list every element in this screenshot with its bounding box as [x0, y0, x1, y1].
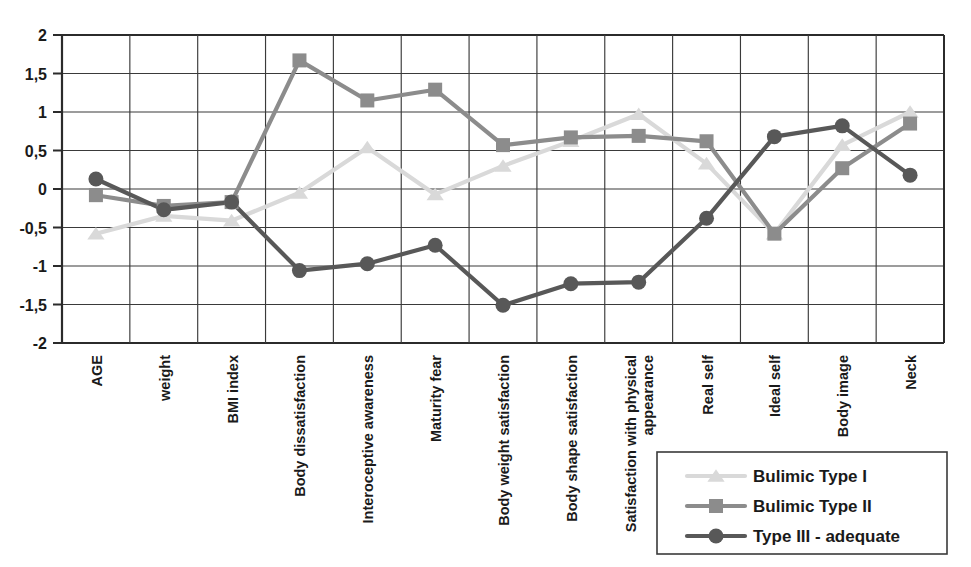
series-markers: [87, 53, 918, 312]
y-tick-label: 2: [38, 27, 47, 44]
x-tick-label: Body weight satisfaction: [496, 355, 512, 526]
x-tick-label: Neck: [903, 354, 919, 390]
data-point-marker: [360, 256, 375, 271]
x-tick-label: weight: [157, 355, 173, 402]
data-point-marker: [563, 276, 578, 291]
x-tick-label: Real self: [700, 355, 716, 415]
line-chart: 21,510,50-0,5-1-1,5-2 AGEweightBMI index…: [0, 0, 971, 567]
data-point-marker: [903, 168, 918, 183]
y-tick-label: -2: [33, 335, 47, 352]
data-point-marker: [564, 130, 578, 144]
x-tick-label: Maturity fear: [428, 355, 444, 442]
y-tick-label: -1,5: [19, 297, 47, 314]
x-tick-label: Satisfaction with physical: [623, 355, 639, 532]
x-tick-label: AGE: [89, 355, 105, 387]
x-tick-label: Interoceptive awareness: [360, 355, 376, 523]
data-point-marker: [700, 134, 714, 148]
data-point-marker: [699, 211, 714, 226]
legend-marker-swatch: [709, 529, 724, 544]
x-tick-label: Ideal self: [767, 355, 783, 417]
y-tick-label: 1,5: [25, 66, 47, 83]
legend-marker-swatch: [709, 499, 723, 513]
data-point-marker: [767, 129, 782, 144]
y-tick-label: -1: [33, 258, 47, 275]
data-point-marker: [359, 141, 376, 154]
data-point-marker: [835, 118, 850, 133]
legend-label-2: Bulimic Type II: [753, 497, 872, 516]
data-point-marker: [89, 188, 103, 202]
data-point-marker: [496, 298, 511, 313]
data-point-marker: [767, 227, 781, 241]
data-point-marker: [428, 238, 443, 253]
data-point-marker: [224, 195, 239, 210]
legend-label-1: Bulimic Type I: [753, 467, 867, 486]
y-axis-ticks: [53, 35, 62, 343]
data-point-marker: [903, 117, 917, 131]
x-tick-label: BMI index: [225, 355, 241, 423]
data-point-marker: [496, 138, 510, 152]
y-gridlines: [62, 35, 944, 343]
data-point-marker: [360, 93, 374, 107]
x-tick-label: Body dissatisfaction: [292, 355, 308, 497]
x-tick-label: appearance: [640, 355, 656, 436]
data-point-marker: [631, 275, 646, 290]
x-tick-label: Body shape satisfaction: [564, 355, 580, 522]
data-point-marker: [88, 171, 103, 186]
y-tick-label: 1: [38, 104, 47, 121]
chart-legend: Bulimic Type IBulimic Type IIType III - …: [657, 452, 947, 554]
series-lines: [96, 60, 910, 305]
data-point-marker: [156, 202, 171, 217]
y-tick-label: 0,5: [25, 143, 47, 160]
data-point-marker: [428, 83, 442, 97]
data-point-marker: [835, 161, 849, 175]
chart-canvas: 21,510,50-0,5-1-1,5-2 AGEweightBMI index…: [0, 0, 971, 567]
data-point-marker: [630, 108, 647, 121]
y-tick-label: -0,5: [19, 220, 47, 237]
data-point-marker: [292, 53, 306, 67]
data-point-marker: [632, 129, 646, 143]
legend-label-3: Type III - adequate: [753, 527, 900, 546]
y-axis-tick-labels: 21,510,50-0,5-1-1,5-2: [19, 27, 47, 352]
x-tick-label: Body image: [835, 355, 851, 437]
y-tick-label: 0: [38, 181, 47, 198]
data-point-marker: [292, 263, 307, 278]
series-line-1: [96, 112, 910, 234]
